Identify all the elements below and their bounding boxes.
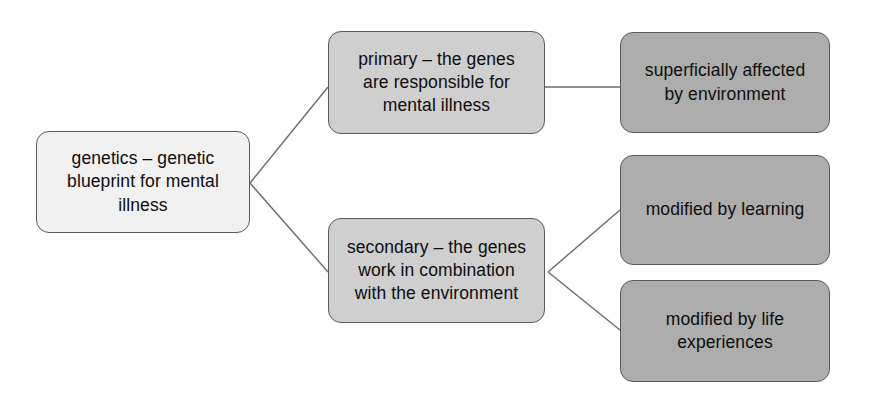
node-label-modified-by-learning: modified by learning bbox=[630, 198, 820, 221]
connector-genetics-to-primary bbox=[250, 87, 328, 183]
connector-genetics-to-secondary bbox=[250, 183, 328, 272]
node-label-secondary: secondary – the genes work in combinatio… bbox=[338, 236, 535, 306]
diagram-canvas: genetics – genetic blueprint for mental … bbox=[0, 0, 873, 404]
node-superficially-affected[interactable]: superficially affected by environment bbox=[620, 32, 830, 133]
node-label-modified-by-life-experiences: modified by life experiences bbox=[630, 308, 820, 355]
connector-secondary-to-life bbox=[548, 272, 620, 330]
connector-secondary-to-learning bbox=[548, 210, 620, 272]
node-genetics[interactable]: genetics – genetic blueprint for mental … bbox=[36, 131, 250, 233]
node-primary[interactable]: primary – the genes are responsible for … bbox=[328, 31, 545, 134]
node-modified-by-learning[interactable]: modified by learning bbox=[620, 155, 830, 265]
node-modified-by-life-experiences[interactable]: modified by life experiences bbox=[620, 280, 830, 382]
node-label-primary: primary – the genes are responsible for … bbox=[338, 48, 535, 118]
node-label-genetics: genetics – genetic blueprint for mental … bbox=[46, 147, 240, 217]
node-secondary[interactable]: secondary – the genes work in combinatio… bbox=[328, 218, 545, 323]
node-label-superficially-affected: superficially affected by environment bbox=[630, 59, 820, 106]
